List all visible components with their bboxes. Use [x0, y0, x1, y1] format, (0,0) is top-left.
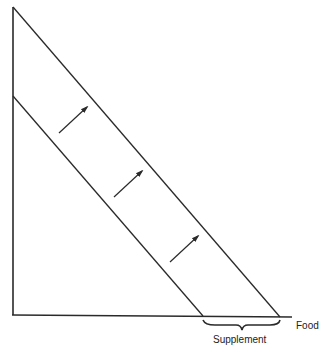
supplement-brace-icon	[203, 320, 280, 330]
shift-arrow-icon	[59, 107, 87, 133]
x-axis-label: Food	[296, 320, 319, 331]
supplement-label: Supplement	[213, 334, 266, 345]
inner-budget-line	[13, 96, 203, 316]
shift-arrow-icon	[114, 171, 142, 197]
outer-budget-line	[13, 7, 280, 317]
shift-arrow-icon	[170, 236, 198, 262]
x-axis	[12, 315, 292, 317]
budget-diagram	[0, 0, 328, 351]
